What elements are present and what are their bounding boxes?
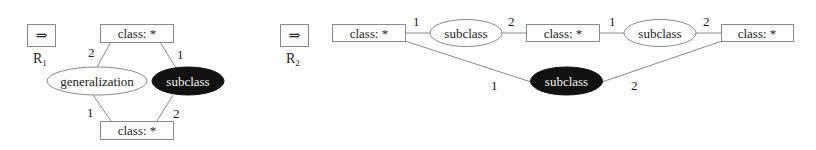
- node-class-c[interactable]: class: *: [722, 25, 794, 42]
- edge-label: 2: [508, 14, 515, 29]
- edge-label: 2: [703, 14, 710, 29]
- node-label: class: *: [544, 26, 583, 41]
- edge-top-to-generalization: [97, 42, 111, 67]
- node-label: class: *: [118, 26, 157, 41]
- edge-label: 1: [491, 78, 498, 93]
- node-label: subclass: [444, 26, 487, 41]
- edge-label: 2: [173, 106, 180, 121]
- node-class-top[interactable]: class: *: [101, 25, 174, 43]
- edge-label: 1: [87, 105, 94, 120]
- rule-r1: ⇒ R1 2 1 1 2 class: * generalization sub…: [28, 25, 225, 140]
- node-label: generalization: [60, 74, 134, 89]
- node-label: subclass: [638, 26, 681, 41]
- node-class-bottom[interactable]: class: *: [101, 122, 174, 140]
- edge-label: 1: [413, 14, 420, 29]
- edge-subclass-dark-to-c: [602, 41, 722, 82]
- edge-label: 2: [88, 45, 95, 60]
- rule-r2: ⇒ R2 1 2 1 2 1 2 class: * subclass class…: [281, 14, 794, 95]
- edge-top-to-subclass: [160, 42, 176, 68]
- rule-r2-label: R2: [286, 51, 300, 68]
- edge-generalization-to-bottom: [93, 95, 111, 121]
- node-subclass-dark[interactable]: subclass: [531, 67, 603, 95]
- edge-a-to-subclass-dark: [405, 41, 531, 82]
- node-class-b[interactable]: class: *: [527, 25, 600, 42]
- double-right-arrow-icon: ⇒: [36, 28, 48, 43]
- double-right-arrow-icon: ⇒: [289, 28, 301, 43]
- diagram-canvas: ⇒ R1 2 1 1 2 class: * generalization sub…: [0, 0, 816, 150]
- node-subclass-dark[interactable]: subclass: [152, 67, 224, 95]
- node-label: class: *: [350, 26, 389, 41]
- node-label: subclass: [545, 74, 588, 89]
- edge-label: 2: [631, 78, 638, 93]
- edge-label: 1: [177, 47, 184, 62]
- node-generalization[interactable]: generalization: [47, 67, 147, 95]
- node-label: class: *: [118, 123, 157, 138]
- node-label: subclass: [166, 74, 209, 89]
- node-subclass-1[interactable]: subclass: [430, 20, 502, 47]
- edge-label: 1: [609, 14, 616, 29]
- node-label: class: *: [738, 26, 777, 41]
- rule-r1-label: R1: [33, 51, 47, 68]
- node-subclass-2[interactable]: subclass: [624, 20, 696, 47]
- edge-subclass-to-bottom: [157, 95, 173, 121]
- node-class-a[interactable]: class: *: [333, 25, 406, 42]
